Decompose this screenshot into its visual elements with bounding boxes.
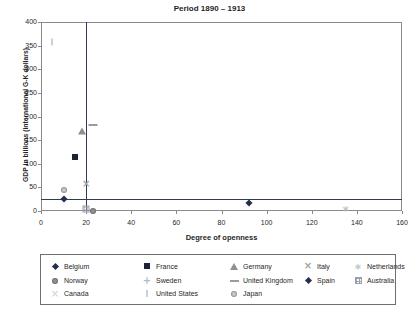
y-tick-label: 400 bbox=[15, 18, 37, 25]
y-tick-label: 250 bbox=[15, 89, 37, 96]
point-australia bbox=[83, 205, 90, 212]
grid-square-marker-icon bbox=[83, 205, 90, 212]
x-tick-label: 140 bbox=[345, 219, 369, 226]
legend-item-germany: Germany bbox=[229, 260, 303, 272]
legend-marker-italy: × bbox=[303, 261, 313, 271]
y-tick-mark bbox=[38, 46, 41, 47]
x-marker-icon: × bbox=[304, 261, 312, 271]
point-germany bbox=[78, 127, 86, 134]
legend-item-united-states: United States bbox=[142, 289, 229, 299]
circle-marker-icon bbox=[231, 291, 237, 297]
x-tick-mark bbox=[131, 211, 132, 214]
legend-label-belgium: Belgium bbox=[64, 263, 89, 270]
point-spain bbox=[61, 197, 66, 202]
legend-marker-spain bbox=[303, 278, 313, 283]
x-tick-mark bbox=[402, 211, 403, 214]
square-marker-icon bbox=[72, 154, 78, 160]
y-tick-label: 150 bbox=[15, 136, 37, 143]
legend-label-spain: Spain bbox=[317, 277, 335, 284]
legend-marker-sweden: + bbox=[142, 276, 152, 286]
diamond-marker-icon bbox=[60, 196, 67, 203]
x-tick-label: 160 bbox=[390, 219, 414, 226]
legend-item-united-kingdom: United Kingdom bbox=[229, 276, 303, 286]
legend-marker-canada: × bbox=[50, 289, 60, 299]
asterisk-marker-icon: * bbox=[355, 263, 361, 275]
circle-marker-icon bbox=[52, 278, 58, 284]
y-tick-mark bbox=[38, 187, 41, 188]
diamond-marker-icon bbox=[304, 277, 311, 284]
horizontal-reference-line bbox=[41, 199, 402, 200]
x-tick-mark bbox=[312, 211, 313, 214]
chart-canvas: Period 1890 – 1913 GDP in billions (inte… bbox=[0, 0, 419, 312]
diamond-marker-icon bbox=[51, 263, 58, 270]
asterisk-marker-icon: * bbox=[342, 205, 348, 217]
point-netherlands: * bbox=[342, 202, 348, 214]
point-france bbox=[72, 154, 78, 160]
legend-marker-australia bbox=[353, 277, 363, 284]
point-united-states bbox=[51, 38, 53, 45]
legend-item-sweden: +Sweden bbox=[142, 276, 229, 286]
legend-marker-netherlands: * bbox=[353, 260, 363, 272]
x-tick-mark bbox=[357, 211, 358, 214]
vbar-marker-icon bbox=[51, 38, 53, 45]
legend-item-australia: Australia bbox=[353, 276, 405, 286]
x-tick-label: 40 bbox=[119, 219, 143, 226]
y-tick-label: 350 bbox=[15, 42, 37, 49]
y-tick-mark bbox=[38, 117, 41, 118]
triangle-marker-icon bbox=[78, 127, 86, 134]
dash-marker-icon bbox=[88, 124, 97, 126]
legend-item-netherlands: *Netherlands bbox=[353, 260, 405, 272]
x-tick-label: 120 bbox=[300, 219, 324, 226]
y-tick-mark bbox=[38, 140, 41, 141]
legend-label-germany: Germany bbox=[243, 263, 272, 270]
x-tick-label: 60 bbox=[164, 219, 188, 226]
y-tick-mark bbox=[38, 22, 41, 23]
x-tick-label: 80 bbox=[210, 219, 234, 226]
legend-item-spain: Spain bbox=[303, 276, 353, 286]
legend-item-japan: Japan bbox=[229, 289, 303, 299]
plot-area bbox=[41, 22, 402, 211]
legend-label-italy: Italy bbox=[317, 263, 330, 270]
legend-label-sweden: Sweden bbox=[156, 277, 181, 284]
point-united-kingdom bbox=[88, 124, 97, 126]
y-tick-label: 0 bbox=[15, 207, 37, 214]
circle-marker-icon bbox=[90, 208, 96, 214]
y-tick-label: 300 bbox=[15, 65, 37, 72]
point-japan bbox=[61, 187, 67, 193]
legend-label-norway: Norway bbox=[64, 277, 88, 284]
legend-marker-united-kingdom bbox=[229, 280, 239, 282]
y-tick-mark bbox=[38, 164, 41, 165]
legend-marker-japan bbox=[229, 291, 239, 297]
point-italy: × bbox=[82, 179, 90, 189]
legend-item-france: France bbox=[142, 260, 229, 272]
legend-item-canada: ×Canada bbox=[50, 289, 142, 299]
legend-label-united-states: United States bbox=[156, 290, 198, 297]
legend: BelgiumFranceGermany×Italy*NetherlandsNo… bbox=[40, 254, 396, 305]
y-tick-mark bbox=[38, 69, 41, 70]
plus-marker-icon: + bbox=[143, 276, 151, 286]
x-tick-mark bbox=[41, 211, 42, 214]
diamond-marker-icon bbox=[245, 199, 252, 206]
y-tick-mark bbox=[38, 93, 41, 94]
legend-item-belgium: Belgium bbox=[50, 260, 142, 272]
legend-item-norway: Norway bbox=[50, 276, 142, 286]
x-tick-label: 100 bbox=[255, 219, 279, 226]
grid-square-marker-icon bbox=[355, 277, 362, 284]
legend-marker-france bbox=[142, 263, 152, 269]
x-tick-mark bbox=[176, 211, 177, 214]
square-marker-icon bbox=[144, 263, 150, 269]
x-tick-label: 20 bbox=[74, 219, 98, 226]
legend-label-canada: Canada bbox=[64, 290, 89, 297]
dash-marker-icon bbox=[230, 280, 239, 282]
legend-label-netherlands: Netherlands bbox=[367, 263, 405, 270]
legend-marker-belgium bbox=[50, 264, 60, 269]
x-marker-icon: × bbox=[51, 289, 59, 299]
legend-label-france: France bbox=[156, 263, 178, 270]
vbar-marker-icon bbox=[146, 290, 148, 297]
y-tick-label: 200 bbox=[15, 113, 37, 120]
x-axis-title: Degree of openness bbox=[41, 233, 402, 242]
legend-marker-united-states bbox=[142, 290, 152, 297]
legend-marker-germany bbox=[229, 263, 239, 270]
legend-item-italy: ×Italy bbox=[303, 260, 353, 272]
legend-label-australia: Australia bbox=[367, 277, 394, 284]
